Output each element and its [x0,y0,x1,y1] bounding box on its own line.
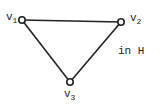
graph-caption: in H [118,46,144,57]
vertex-label-v3: v3 [64,89,75,102]
edge-v3-v1 [22,20,70,82]
vertex-v1 [19,17,25,23]
graph-diagram: v1 v2 v3 in H [0,0,163,105]
vertex-v3 [67,79,73,85]
vertex-label-v1: v1 [6,12,17,25]
edge-v1-v2 [22,20,121,22]
edge-v2-v3 [70,22,121,82]
vertex-label-v2: v2 [130,13,141,26]
vertex-v2 [118,19,124,25]
